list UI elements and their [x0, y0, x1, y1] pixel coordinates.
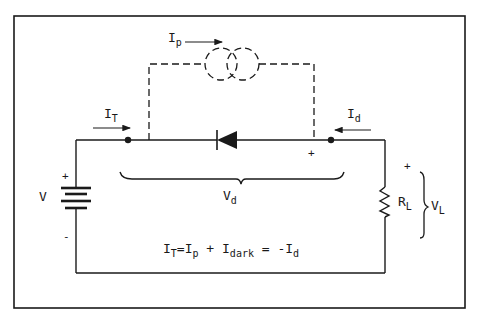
photodiode-symbol	[217, 130, 237, 150]
ip-label: Ip	[168, 30, 182, 48]
load-resistor-symbol	[380, 187, 389, 217]
vd-label: Vd	[223, 188, 237, 206]
diode-plus-sign: +	[308, 147, 315, 160]
vl-plus-sign: +	[404, 160, 411, 173]
node-right	[328, 137, 334, 143]
vl-brace	[420, 172, 428, 238]
vl-label: VL	[431, 198, 445, 216]
battery-symbol	[61, 188, 91, 208]
photocurrent-branch	[149, 48, 314, 140]
rl-label: RL	[398, 194, 412, 212]
v-source-label: V	[39, 189, 47, 204]
node-left	[125, 137, 131, 143]
circuit-diagram: Ip IT Id Vd V + - + + RL VL IT=Ip + Idar…	[0, 0, 482, 321]
current-source-circle-right	[227, 48, 259, 80]
it-label: IT	[104, 106, 118, 124]
figure-frame	[14, 16, 465, 308]
vd-brace	[120, 172, 344, 184]
battery-plus-sign: +	[62, 170, 69, 183]
battery-minus-sign: -	[63, 230, 70, 243]
id-label: Id	[347, 106, 361, 124]
current-equation: IT=Ip + Idark = -Id	[163, 241, 299, 259]
